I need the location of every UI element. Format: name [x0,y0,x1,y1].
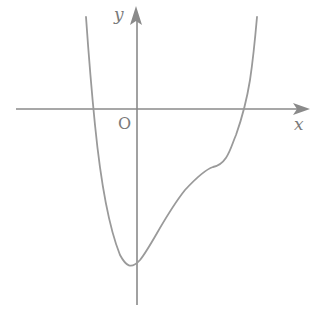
x-axis-label: x [294,114,304,134]
function-graph-figure: y x O [0,0,327,319]
y-axis-label: y [113,4,124,24]
function-curve [86,17,257,266]
y-axis-arrow-icon [130,6,142,25]
graph-canvas: y x O [0,0,327,319]
origin-label: O [118,114,131,133]
